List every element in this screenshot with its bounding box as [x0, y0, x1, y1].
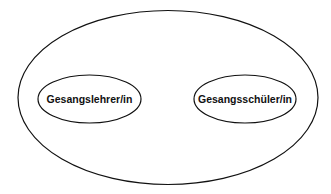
node-student: Gesangsschüler/in [194, 75, 296, 123]
diagram-canvas: Gesangslehrer/in Gesangsschüler/in [0, 0, 331, 194]
teacher-label: Gesangslehrer/in [47, 93, 133, 105]
student-label: Gesangsschüler/in [198, 93, 292, 105]
node-teacher: Gesangslehrer/in [38, 75, 141, 123]
